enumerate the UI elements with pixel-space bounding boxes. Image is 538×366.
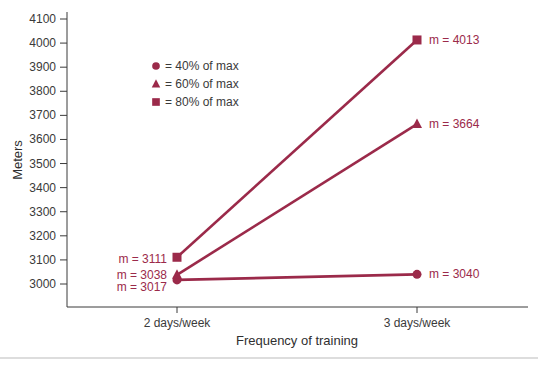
square-marker-icon xyxy=(173,253,182,262)
series-line xyxy=(177,124,417,275)
y-tick-label: 3300 xyxy=(29,205,56,219)
point-label: m = 4013 xyxy=(429,33,480,47)
legend-label: = 80% of max xyxy=(165,95,239,109)
square-marker-icon xyxy=(413,35,422,44)
y-ticks: 3000310032003300340035003600370038003900… xyxy=(29,12,67,291)
point-label: m = 3017 xyxy=(117,280,168,294)
line-chart: 3000310032003300340035003600370038003900… xyxy=(0,0,538,366)
y-tick-label: 3400 xyxy=(29,181,56,195)
legend-label: = 40% of max xyxy=(165,59,239,73)
point-label: m = 3111 xyxy=(118,252,167,266)
square-marker-icon xyxy=(152,98,160,106)
y-tick-label: 3000 xyxy=(29,277,56,291)
y-tick-label: 3800 xyxy=(29,84,56,98)
x-tick-label: 2 days/week xyxy=(144,316,212,330)
circle-marker-icon xyxy=(413,270,422,279)
y-tick-label: 3100 xyxy=(29,253,56,267)
x-ticks: 2 days/week3 days/week xyxy=(144,307,452,330)
y-tick-label: 3900 xyxy=(29,60,56,74)
y-tick-label: 3200 xyxy=(29,229,56,243)
series-line xyxy=(177,274,417,280)
triangle-marker-icon xyxy=(412,119,422,129)
y-axis-title: Meters xyxy=(10,140,25,180)
x-axis-title: Frequency of training xyxy=(236,333,358,348)
point-label: m = 3038 xyxy=(117,268,168,282)
y-tick-label: 3600 xyxy=(29,132,56,146)
y-tick-label: 4100 xyxy=(29,12,56,26)
point-label: m = 3664 xyxy=(429,117,480,131)
legend: = 40% of max= 60% of max= 80% of max xyxy=(152,59,239,109)
legend-label: = 60% of max xyxy=(165,77,239,91)
circle-marker-icon xyxy=(152,62,160,70)
y-tick-label: 4000 xyxy=(29,36,56,50)
point-label: m = 3040 xyxy=(429,267,480,281)
x-tick-label: 3 days/week xyxy=(384,316,452,330)
y-tick-label: 3500 xyxy=(29,157,56,171)
y-tick-label: 3700 xyxy=(29,108,56,122)
triangle-marker-icon xyxy=(152,79,161,87)
